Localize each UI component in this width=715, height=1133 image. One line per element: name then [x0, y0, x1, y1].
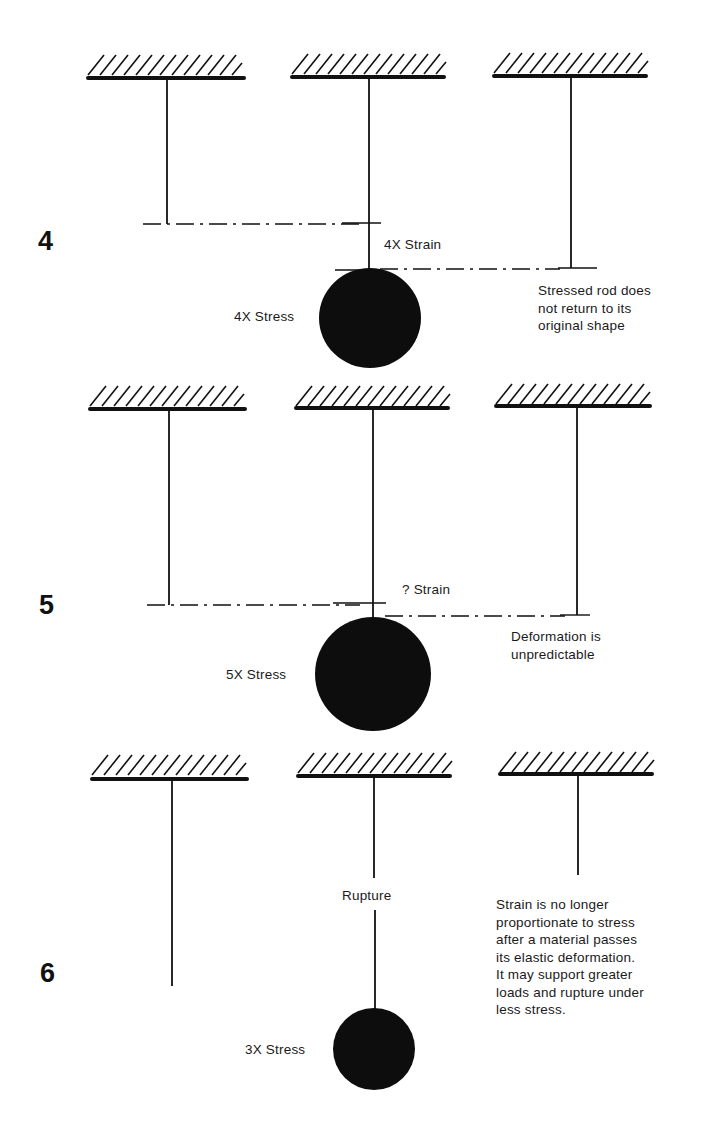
ceiling-support-right — [500, 752, 654, 774]
rupture-label: Rupture — [342, 887, 391, 904]
panel-4-note: Stressed rod does not return to its orig… — [538, 282, 651, 335]
panel-6-note: Strain is no longer proportionate to str… — [496, 896, 644, 1019]
ceiling-support-right — [494, 53, 648, 76]
panel-5-note: Deformation is unpredictable — [511, 628, 601, 663]
ceiling-support-middle — [296, 386, 450, 408]
stress-label: 3X Stress — [245, 1041, 305, 1058]
stress-label: 4X Stress — [234, 308, 294, 325]
strain-label: ? Strain — [402, 581, 450, 598]
weight-ball — [333, 1008, 415, 1090]
panel-5 — [90, 384, 650, 731]
ceiling-support-right — [496, 384, 650, 406]
ceiling-support-left — [88, 55, 244, 78]
stress-label: 5X Stress — [226, 666, 286, 683]
ceiling-support-left — [92, 755, 247, 779]
step-number-5: 5 — [39, 590, 54, 621]
weight-ball — [319, 268, 421, 368]
ceiling-support-middle — [292, 54, 446, 77]
ceiling-support-left — [90, 386, 245, 409]
step-number-4: 4 — [38, 226, 53, 257]
step-number-6: 6 — [40, 958, 55, 989]
strain-label: 4X Strain — [384, 236, 441, 253]
weight-ball — [315, 617, 431, 731]
ceiling-support-middle — [298, 753, 452, 776]
